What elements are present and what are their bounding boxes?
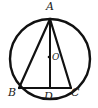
- vertex-label-d: D: [44, 91, 53, 102]
- geometry-figure: A B C D O: [0, 0, 98, 108]
- center-point-dot: [48, 56, 51, 59]
- vertex-label-c: C: [71, 87, 79, 98]
- vertex-label-a: A: [46, 1, 54, 12]
- center-label-o: O: [52, 53, 59, 62]
- vertex-label-b: B: [8, 87, 16, 98]
